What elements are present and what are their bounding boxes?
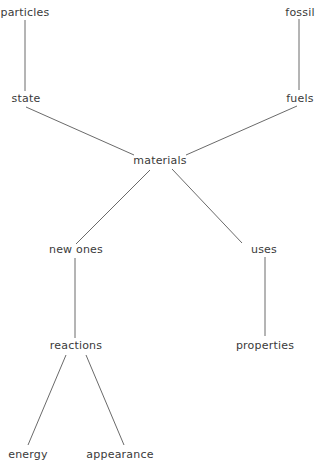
node-materials: materials [133,155,186,167]
edge-reactions-appearance [86,355,124,445]
node-energy: energy [8,449,48,461]
edges-layer [0,0,318,474]
node-properties: properties [236,340,294,352]
node-fuels: fuels [286,93,313,105]
node-uses: uses [251,244,277,256]
node-appearance: appearance [86,449,153,461]
edge-state-materials [26,107,134,155]
node-new-ones: new ones [49,244,103,256]
node-state: state [12,93,41,105]
concept-map: particles fossil state fuels materials n… [0,0,318,474]
edge-reactions-energy [28,355,66,445]
edge-fuels-materials [186,106,297,155]
edge-materials-new-ones [76,170,150,244]
edge-materials-uses [172,169,242,243]
node-fossil: fossil [285,7,314,19]
node-reactions: reactions [50,340,102,352]
node-particles: particles [0,7,49,19]
